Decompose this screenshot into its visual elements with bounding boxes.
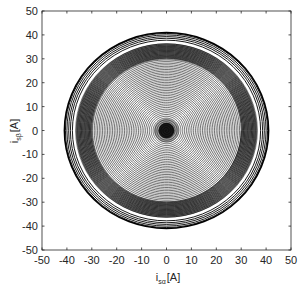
x-tick-label: 30 xyxy=(235,254,247,266)
y-tick-label: 20 xyxy=(26,77,38,89)
y-tick-label: 50 xyxy=(26,5,38,17)
y-axis-label: isβ[A] xyxy=(8,119,23,143)
x-tick-label: -30 xyxy=(84,254,100,266)
x-tick-label: -10 xyxy=(134,254,150,266)
x-tick-label: 20 xyxy=(210,254,222,266)
y-tick-label: -20 xyxy=(22,172,38,184)
y-tick-label: -50 xyxy=(22,244,38,256)
x-axis-label: isα[A] xyxy=(156,271,180,285)
x-tick-label: 50 xyxy=(285,254,297,266)
y-tick-label: 0 xyxy=(32,125,38,137)
x-tick-label: -20 xyxy=(109,254,125,266)
y-tick-label: 30 xyxy=(26,53,38,65)
x-tick-label: 10 xyxy=(185,254,197,266)
y-tick-label: -10 xyxy=(22,148,38,160)
x-tick-label: 0 xyxy=(163,254,169,266)
phase-current-trajectory-chart: -50-40-30-20-1001020304050 -50-40-30-20-… xyxy=(0,0,302,293)
y-tick-label: -40 xyxy=(22,220,38,232)
x-tick-label: 40 xyxy=(260,254,272,266)
y-tick-label: 10 xyxy=(26,101,38,113)
x-tick-label: -40 xyxy=(59,254,75,266)
y-tick-label: -30 xyxy=(22,196,38,208)
y-tick-label: 40 xyxy=(26,29,38,41)
